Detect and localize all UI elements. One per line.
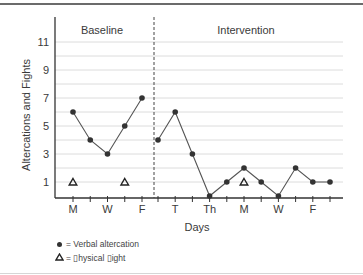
phase-label-baseline: Baseline [81, 24, 123, 36]
data-point-verbal [105, 151, 111, 157]
y-tick-label: 11 [38, 36, 49, 48]
x-tick-label: F [309, 203, 316, 215]
triangle-marker-icon [54, 253, 64, 263]
legend-label-physical: = ▯hysical ▯ight [66, 253, 125, 263]
phase-label-intervention: Intervention [217, 24, 274, 36]
y-tick-label: 7 [43, 92, 49, 104]
data-point-verbal [190, 151, 196, 157]
data-point-verbal [258, 179, 264, 185]
data-point-verbal [87, 137, 93, 143]
x-tick-label: M [239, 203, 248, 215]
data-point-verbal [224, 179, 230, 185]
dot-marker-icon [54, 239, 64, 249]
legend-item-physical: = ▯hysical ▯ight [54, 253, 125, 263]
data-point-verbal [207, 193, 213, 199]
x-tick-label: W [102, 203, 113, 215]
data-point-verbal [310, 179, 316, 185]
bottom-border [0, 273, 363, 274]
data-point-verbal [70, 109, 76, 115]
y-tick-label: 5 [43, 120, 49, 132]
legend-label-verbal: = Verbal altercation [66, 239, 139, 249]
x-tick-label: Th [203, 203, 216, 215]
data-point-verbal [327, 179, 333, 185]
data-point-verbal [155, 137, 161, 143]
x-tick-label: M [68, 203, 77, 215]
y-axis-label: Altercations and Fights [20, 59, 32, 171]
y-tick-label: 9 [43, 64, 49, 76]
data-point-verbal [276, 193, 282, 199]
data-point-verbal [241, 165, 247, 171]
data-point-verbal [172, 109, 178, 115]
legend-item-verbal: = Verbal altercation [54, 239, 139, 249]
y-tick-label: 3 [43, 148, 49, 160]
data-point-verbal [293, 165, 299, 171]
chart: 1357911Altercations and FightsBaselineMW… [0, 0, 363, 275]
x-tick-label: W [273, 203, 284, 215]
data-point-verbal [139, 95, 145, 101]
x-axis-label: Days [184, 221, 210, 233]
x-tick-label: F [139, 203, 146, 215]
x-tick-label: T [172, 203, 179, 215]
y-tick-label: 1 [43, 176, 49, 188]
data-point-verbal [122, 123, 128, 129]
